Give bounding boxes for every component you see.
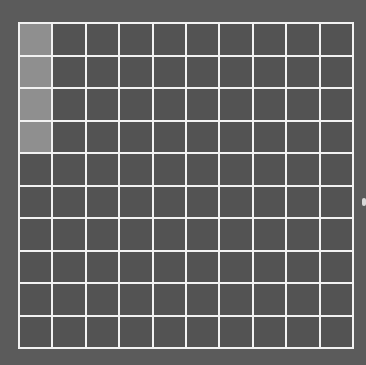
grid-cell[interactable]	[87, 284, 118, 315]
grid-cell[interactable]	[87, 154, 118, 185]
grid-cell[interactable]	[120, 57, 151, 88]
grid-cell[interactable]	[187, 252, 218, 283]
grid-cell[interactable]	[53, 317, 84, 348]
grid-cell[interactable]	[187, 284, 218, 315]
grid-cell[interactable]	[87, 252, 118, 283]
grid-cell[interactable]	[20, 252, 51, 283]
grid-cell[interactable]	[154, 122, 185, 153]
grid-cell[interactable]	[154, 57, 185, 88]
grid-cell[interactable]	[220, 187, 251, 218]
grid-cell[interactable]	[321, 219, 352, 250]
grid-cell[interactable]	[254, 122, 285, 153]
grid-cell[interactable]	[120, 219, 151, 250]
grid-cell[interactable]	[220, 57, 251, 88]
grid-cell[interactable]	[154, 89, 185, 120]
grid-cell[interactable]	[254, 57, 285, 88]
grid-cell[interactable]	[87, 57, 118, 88]
grid-cell[interactable]	[321, 317, 352, 348]
grid-cell[interactable]	[53, 89, 84, 120]
grid-cell[interactable]	[53, 284, 84, 315]
grid-cell-filled[interactable]	[20, 122, 51, 153]
grid-cell[interactable]	[87, 317, 118, 348]
grid-cell[interactable]	[321, 187, 352, 218]
grid-cell[interactable]	[120, 284, 151, 315]
grid-cell[interactable]	[53, 219, 84, 250]
grid-cell[interactable]	[187, 219, 218, 250]
grid-cell[interactable]	[254, 317, 285, 348]
grid-cell[interactable]	[287, 317, 318, 348]
grid-cell[interactable]	[321, 154, 352, 185]
grid-cell[interactable]	[254, 252, 285, 283]
grid-cell[interactable]	[220, 89, 251, 120]
grid-cell[interactable]	[220, 284, 251, 315]
grid-cell[interactable]	[187, 24, 218, 55]
grid-cell[interactable]	[220, 252, 251, 283]
grid-cell[interactable]	[321, 89, 352, 120]
grid-cell[interactable]	[154, 154, 185, 185]
grid-cell[interactable]	[220, 122, 251, 153]
grid-cell[interactable]	[254, 284, 285, 315]
grid-cell[interactable]	[120, 24, 151, 55]
grid-cell[interactable]	[120, 154, 151, 185]
grid-cell[interactable]	[120, 187, 151, 218]
grid-cell[interactable]	[321, 252, 352, 283]
grid-cell[interactable]	[321, 122, 352, 153]
grid-cell[interactable]	[187, 154, 218, 185]
grid-cell[interactable]	[87, 24, 118, 55]
grid-cell[interactable]	[154, 219, 185, 250]
grid-cell[interactable]	[20, 317, 51, 348]
grid-cell[interactable]	[254, 89, 285, 120]
grid-cell[interactable]	[120, 89, 151, 120]
grid-cell[interactable]	[287, 24, 318, 55]
grid-cell[interactable]	[254, 24, 285, 55]
grid-cell[interactable]	[287, 219, 318, 250]
grid-cell[interactable]	[321, 284, 352, 315]
grid-cell[interactable]	[254, 219, 285, 250]
grid-cell[interactable]	[53, 57, 84, 88]
grid-cell[interactable]	[20, 284, 51, 315]
grid-cell[interactable]	[20, 219, 51, 250]
grid-cell[interactable]	[287, 89, 318, 120]
grid-cell[interactable]	[53, 154, 84, 185]
grid-cell[interactable]	[220, 24, 251, 55]
grid-cell[interactable]	[53, 252, 84, 283]
grid-cell[interactable]	[287, 252, 318, 283]
grid-cell[interactable]	[20, 187, 51, 218]
grid-cell-filled[interactable]	[20, 89, 51, 120]
grid-cell[interactable]	[120, 252, 151, 283]
grid-cell[interactable]	[53, 122, 84, 153]
scroll-handle-icon[interactable]	[362, 198, 366, 206]
grid-cell[interactable]	[53, 24, 84, 55]
grid-cell[interactable]	[187, 89, 218, 120]
grid-cell[interactable]	[287, 57, 318, 88]
grid-cell[interactable]	[287, 122, 318, 153]
grid-cell[interactable]	[20, 154, 51, 185]
grid-cell[interactable]	[154, 252, 185, 283]
grid-cell[interactable]	[220, 317, 251, 348]
grid-cell[interactable]	[87, 187, 118, 218]
grid-cell[interactable]	[154, 187, 185, 218]
grid-cell-filled[interactable]	[20, 24, 51, 55]
grid-cell[interactable]	[87, 122, 118, 153]
grid-cell[interactable]	[154, 317, 185, 348]
grid-cell[interactable]	[53, 187, 84, 218]
grid-cell[interactable]	[287, 284, 318, 315]
grid-cell[interactable]	[154, 24, 185, 55]
grid-cell[interactable]	[187, 122, 218, 153]
grid-cell[interactable]	[321, 24, 352, 55]
grid-cell[interactable]	[120, 317, 151, 348]
grid-cell[interactable]	[154, 284, 185, 315]
grid-cell[interactable]	[220, 154, 251, 185]
grid-cell[interactable]	[254, 187, 285, 218]
grid-cell[interactable]	[187, 187, 218, 218]
grid-cell[interactable]	[220, 219, 251, 250]
grid-cell[interactable]	[187, 317, 218, 348]
grid-cell-filled[interactable]	[20, 57, 51, 88]
grid-cell[interactable]	[287, 154, 318, 185]
grid-cell[interactable]	[254, 154, 285, 185]
grid-cell[interactable]	[120, 122, 151, 153]
grid-cell[interactable]	[321, 57, 352, 88]
grid-cell[interactable]	[87, 219, 118, 250]
grid-cell[interactable]	[287, 187, 318, 218]
grid-cell[interactable]	[87, 89, 118, 120]
